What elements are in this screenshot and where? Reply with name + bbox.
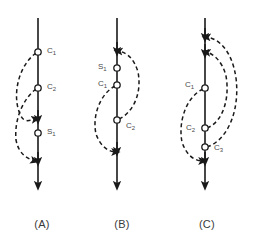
panel-a-caption: (A) — [22, 218, 62, 230]
panel-b-node-s1[interactable] — [114, 65, 120, 71]
panel-c-arc-2 — [206, 52, 227, 128]
panel-b-node-c1[interactable] — [114, 82, 120, 88]
panel-b-node-c2[interactable] — [114, 117, 120, 123]
figure-root: C1 C2 S1 S1 C1 C2 C1 C2 C3 (A) (B) (C) — [0, 0, 263, 247]
panel-b-arc-2 — [95, 86, 116, 152]
panel-a — [16, 18, 41, 186]
panel-c-node-c1[interactable] — [202, 85, 208, 91]
panel-b-caption: (B) — [102, 218, 142, 230]
panel-c-node-c3[interactable] — [202, 144, 208, 150]
panel-c — [181, 18, 237, 186]
panel-a-arc-1 — [17, 53, 36, 121]
panel-b-arc-1 — [118, 51, 139, 119]
panel-c-node-c2[interactable] — [202, 125, 208, 131]
panel-b-label-c2: C2 — [126, 122, 135, 130]
panel-c-label-c3: C3 — [214, 144, 223, 152]
panel-a-arc-2 — [16, 89, 36, 161]
panel-a-label-s1: S1 — [47, 128, 56, 136]
panel-c-label-c2: C2 — [186, 124, 195, 132]
panel-a-node-c2[interactable] — [35, 85, 41, 91]
panel-a-node-c1[interactable] — [35, 49, 41, 55]
panel-c-caption: (C) — [187, 218, 227, 230]
panel-b-label-s1: S1 — [98, 63, 107, 71]
panel-a-label-c1: C1 — [47, 47, 56, 55]
panel-c-label-c1: C1 — [185, 81, 194, 89]
panel-b-label-c1: C1 — [98, 80, 107, 88]
panel-a-node-s1[interactable] — [35, 130, 41, 136]
panel-a-label-c2: C2 — [47, 83, 56, 91]
panel-b — [95, 18, 139, 186]
